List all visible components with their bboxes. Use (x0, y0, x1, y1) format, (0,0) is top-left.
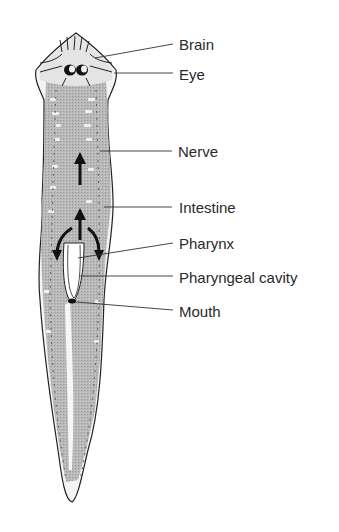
label-pharyngeal-cavity: Pharyngeal cavity (179, 270, 297, 285)
planarian-diagram: Brain Eye Nerve Intestine Pharynx Pharyn… (0, 0, 339, 532)
head (39, 35, 113, 86)
label-pharynx: Pharynx (179, 236, 234, 251)
diagram-canvas (0, 0, 339, 532)
brain-leader (95, 44, 173, 58)
mouth-opening (68, 299, 76, 304)
label-nerve: Nerve (178, 144, 218, 159)
label-intestine: Intestine (179, 200, 236, 215)
label-brain: Brain (179, 37, 214, 52)
label-mouth: Mouth (179, 304, 221, 319)
label-eye: Eye (179, 67, 205, 82)
